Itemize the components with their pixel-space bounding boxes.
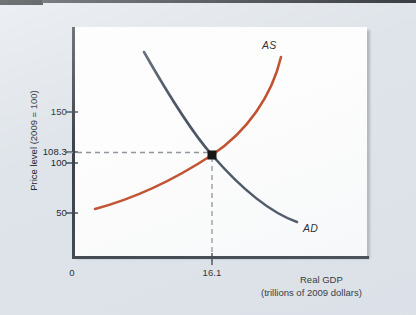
y-tick-label-100: 100	[51, 157, 67, 168]
ad-curve-label: AD	[303, 222, 318, 234]
x-tick-label-16-1: 16.1	[194, 267, 230, 278]
x-axis-subtitle: (trillions of 2009 dollars)	[261, 287, 362, 298]
as-curve	[95, 57, 281, 209]
y-axis-ticks	[66, 112, 78, 213]
x-tick-label-0: 0	[66, 267, 78, 278]
y-tick-label-150: 150	[51, 106, 67, 117]
as-curve-label: AS	[262, 39, 276, 51]
equilibrium-point-marker	[208, 151, 217, 160]
y-tick-label-108-3: 108.3	[43, 146, 67, 157]
y-tick-label-50: 50	[56, 207, 67, 218]
y-axis-title: Price level (2009 = 100)	[28, 61, 39, 221]
x-axis-title: Real GDP	[300, 274, 343, 285]
economics-figure-ad-as: 150 108.3 100 50 0 16.1 Price level (200…	[0, 0, 416, 315]
